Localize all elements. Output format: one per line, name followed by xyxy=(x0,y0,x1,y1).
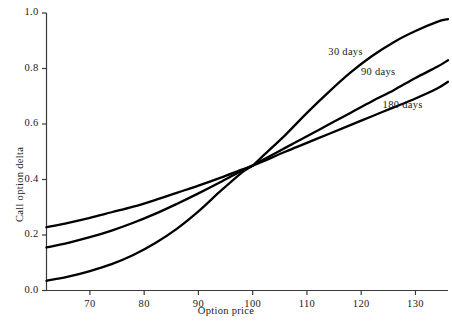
series-curves xyxy=(47,19,449,281)
y-tick-label: 0.0 xyxy=(0,284,39,295)
delta-chart-figure: 0.00.20.40.60.81.0 708090100110120130 30… xyxy=(0,0,452,323)
series-annotation-30-days: 30 days xyxy=(328,46,362,57)
series-annotation-90-days: 90 days xyxy=(361,66,395,77)
y-tick-label: 0.8 xyxy=(0,62,39,73)
series-curve-90-days xyxy=(47,60,449,247)
y-tick-marks xyxy=(42,13,47,291)
y-tick-label: 0.2 xyxy=(0,228,39,239)
x-tick-marks xyxy=(90,291,416,296)
plot-area xyxy=(0,0,452,323)
series-curve-30-days xyxy=(47,19,449,281)
y-axis-title: Call option delta xyxy=(14,147,25,222)
y-tick-label: 0.6 xyxy=(0,117,39,128)
x-axis-title: Option price xyxy=(0,305,452,316)
series-annotation-180-days: 180 days xyxy=(383,99,423,110)
axes xyxy=(46,13,448,291)
y-tick-label: 1.0 xyxy=(0,6,39,17)
